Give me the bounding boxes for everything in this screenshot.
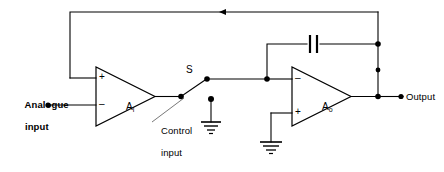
arrow-left-icon <box>219 9 226 15</box>
output-terminal-dot <box>398 94 403 99</box>
analogue-input-label: Analogue input <box>14 88 69 143</box>
input-amplifier-label: Ai <box>115 90 134 124</box>
output-rail <box>375 12 403 99</box>
capacitor-feedback-path <box>267 35 378 79</box>
feedback-path <box>70 12 378 78</box>
ground-symbol-switch <box>201 96 221 134</box>
circuit-diagram: Analogue input Ai + – S Control input Ao… <box>0 0 444 172</box>
output-amplifier-label: Ao <box>311 90 333 124</box>
output-amp-plus-sign: + <box>295 107 301 117</box>
ground-symbol-output-amp <box>260 113 282 154</box>
input-amp-minus-sign: – <box>99 99 105 109</box>
rail-capacitor-junction-dot <box>375 41 381 47</box>
input-amp-plus-sign: + <box>99 72 105 82</box>
control-input-label: Control input <box>150 114 192 169</box>
switch-blade <box>181 80 205 97</box>
switch-symbol <box>178 76 267 99</box>
circuit-schematic-canvas <box>0 0 444 172</box>
output-label: Output <box>406 91 435 102</box>
rail-mid-junction-dot <box>376 68 381 73</box>
output-amp-minus-sign: – <box>295 73 301 83</box>
switch-label: S <box>186 64 193 75</box>
